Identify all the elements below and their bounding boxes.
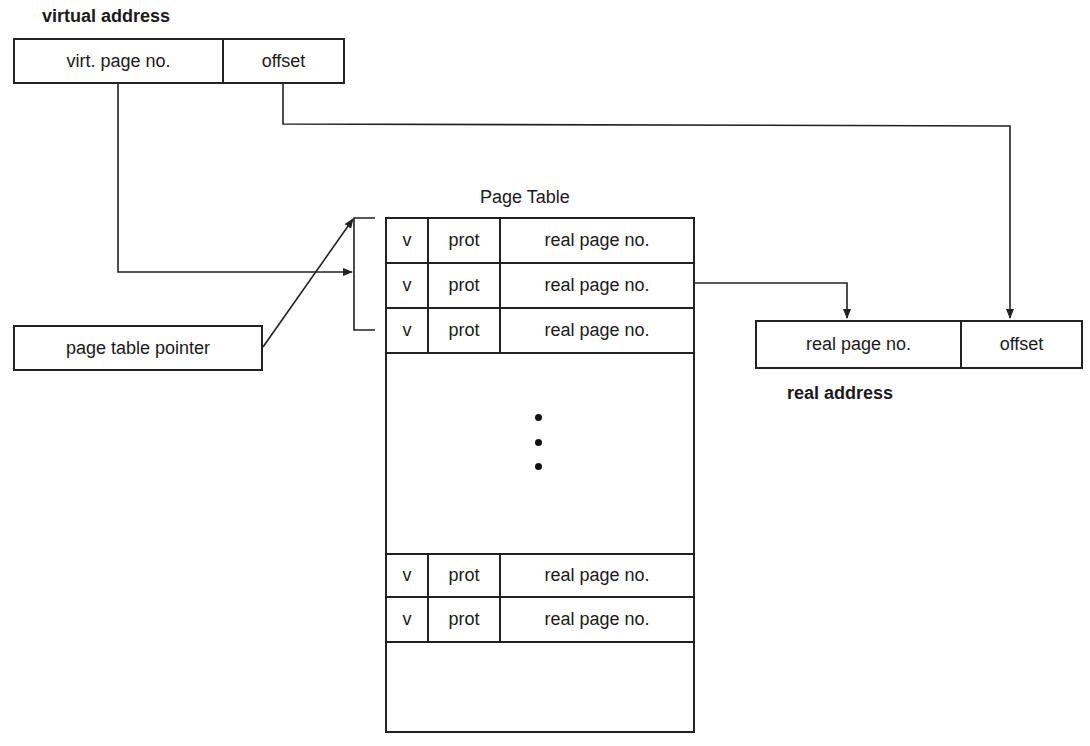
vpn-index-arrow xyxy=(118,84,352,272)
connector-lines xyxy=(0,0,1090,746)
offset-copy-arrow xyxy=(283,84,1010,318)
page-table-bracket xyxy=(354,218,375,330)
frame-arrow xyxy=(695,283,847,318)
pointer-arrow xyxy=(263,219,353,347)
